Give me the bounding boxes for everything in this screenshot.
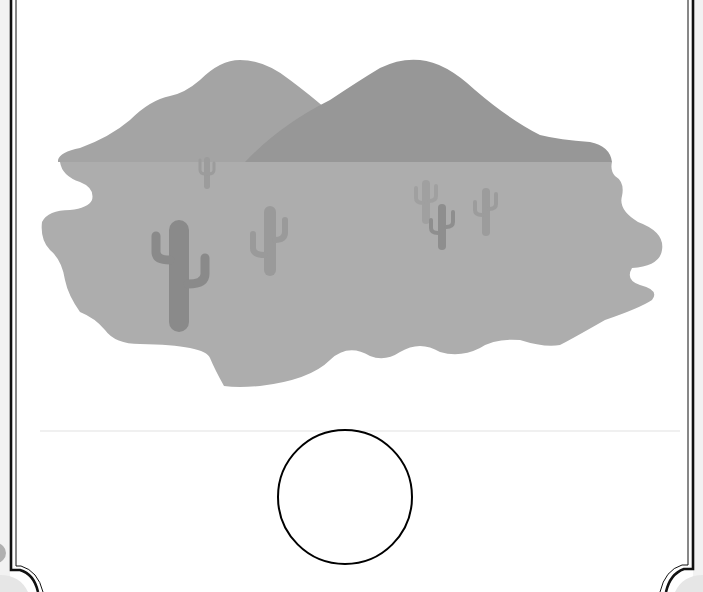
illustration-canvas <box>0 0 703 592</box>
empty-circle[interactable] <box>278 430 412 564</box>
desert-ground <box>42 162 663 387</box>
